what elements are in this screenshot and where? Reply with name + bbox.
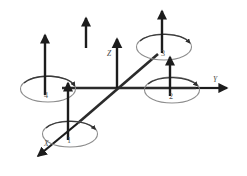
rotor-3-label: 3 [161, 50, 165, 58]
rotor-4-label: 4 [44, 92, 48, 100]
y-axis-label: Y [213, 76, 217, 84]
frame-arms [62, 54, 196, 123]
diagram-canvas: 4 1 2 3 Z Y X [0, 0, 247, 176]
z-axis-label: Z [107, 50, 111, 58]
quadrotor-schematic-svg [0, 0, 247, 176]
x-axis-label: X [44, 140, 49, 148]
rotor-3-spin-arc [140, 34, 190, 42]
rotor-2-spin-arc [148, 78, 197, 86]
rotor-1-label: 1 [67, 137, 71, 145]
rotor-2-label: 2 [169, 93, 173, 101]
